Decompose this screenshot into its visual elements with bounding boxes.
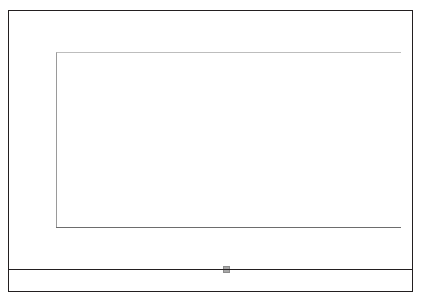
source-divider [9,269,412,270]
chart-canvas [9,11,414,293]
plot-region [56,52,401,227]
x-axis-tick-labels [56,230,401,260]
y-axis-tick-labels [9,52,53,227]
x-axis-line [56,227,401,228]
chart-figure-frame [8,10,413,292]
